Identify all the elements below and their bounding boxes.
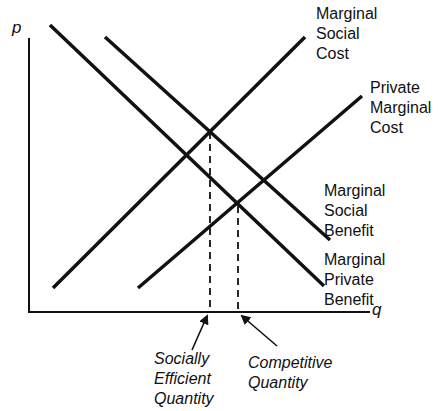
competitive-arrow bbox=[242, 316, 277, 346]
competitive-quantity-label: Competitive Quantity bbox=[248, 353, 332, 393]
socially-efficient-quantity-label: Socially Efficient Quantity bbox=[154, 349, 214, 409]
private-marginal-cost-label: Private Marginal Cost bbox=[370, 78, 431, 138]
marginal-private-benefit-label: Marginal Private Benefit bbox=[324, 250, 385, 310]
marginal-social-cost-label: Marginal Social Cost bbox=[316, 4, 377, 64]
marginal-social-cost-line bbox=[53, 37, 305, 288]
y-axis-label: p bbox=[12, 18, 21, 38]
socially-efficient-arrow bbox=[192, 316, 207, 350]
marginal-social-benefit-label: Marginal Social Benefit bbox=[324, 181, 385, 241]
marginal-social-benefit-line bbox=[105, 37, 330, 240]
